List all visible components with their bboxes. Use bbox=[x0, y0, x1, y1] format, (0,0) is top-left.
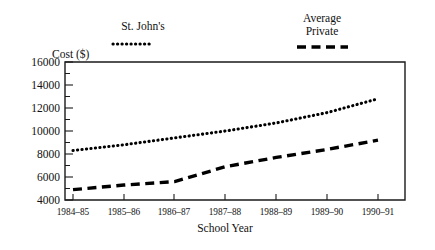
series-line-average-private bbox=[73, 140, 378, 189]
x-tick-label-5: 1989–90 bbox=[311, 207, 344, 217]
legend-label-st-johns: St. John's bbox=[121, 20, 165, 32]
x-tick-label-6: 1990–91 bbox=[362, 207, 395, 217]
y-tick-label-16000: 16000 bbox=[31, 56, 60, 68]
legend-label-average-line2: Private bbox=[306, 25, 339, 37]
x-axis-title: School Year bbox=[197, 222, 253, 234]
y-tick-label-12000: 12000 bbox=[31, 102, 60, 114]
x-tick-label-2: 1986–87 bbox=[158, 207, 191, 217]
y-tick-label-14000: 14000 bbox=[31, 79, 60, 91]
x-tick-label-1: 1985–86 bbox=[108, 207, 141, 217]
series-line-st-johns bbox=[73, 99, 378, 151]
x-tick-label-0: 1984–85 bbox=[57, 207, 90, 217]
y-tick-label-8000: 8000 bbox=[37, 148, 60, 160]
plot-frame bbox=[65, 62, 405, 200]
y-tick-label-10000: 10000 bbox=[31, 125, 60, 137]
x-tick-label-3: 1987–88 bbox=[209, 207, 242, 217]
legend-label-average-line1: Average bbox=[303, 12, 341, 25]
y-axis: 16000 14000 12000 10000 8000 6000 4000 bbox=[31, 56, 73, 206]
y-tick-label-6000: 6000 bbox=[37, 171, 60, 183]
chart-legend: St. John's Average Private bbox=[113, 12, 348, 47]
x-tick-label-4: 1988–89 bbox=[260, 207, 293, 217]
chart-container: St. John's Average Private Cost ($) bbox=[0, 0, 435, 250]
y-tick-label-4000: 4000 bbox=[37, 194, 60, 206]
line-chart: St. John's Average Private Cost ($) bbox=[0, 0, 435, 250]
